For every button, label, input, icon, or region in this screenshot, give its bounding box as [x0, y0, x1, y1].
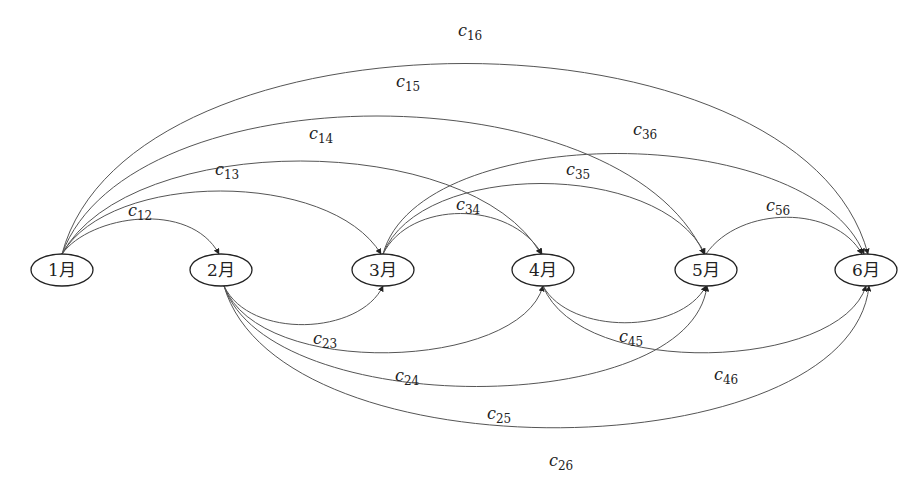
- edge-label-c45: c45: [619, 327, 643, 349]
- node-label: 6月: [852, 260, 880, 280]
- edge-label-c15: c15: [396, 72, 420, 94]
- edge-3-4: [383, 214, 542, 255]
- edge-label-c36: c36: [633, 120, 657, 142]
- edge-2-4: [224, 286, 543, 353]
- edge-label-c34: c34: [456, 195, 481, 217]
- edge-1-6: [62, 64, 868, 255]
- edge-label-c23: c23: [313, 329, 337, 351]
- edge-2-6: [224, 286, 869, 428]
- edge-label-c26: c26: [549, 451, 573, 473]
- edge-label-c13: c13: [215, 160, 239, 182]
- network-diagram: c12 c13 c14 c15 c16 c23 c24 c25 c26 c34 …: [0, 0, 923, 494]
- node-month-1: 1月: [31, 254, 93, 286]
- edge-label-c16: c16: [458, 21, 482, 43]
- edge-3-5: [383, 184, 705, 255]
- edge-label-c24: c24: [395, 366, 420, 388]
- node-month-2: 2月: [190, 254, 252, 286]
- edge-2-3: [224, 286, 383, 325]
- node-label: 2月: [207, 260, 235, 280]
- edge-label-c12: c12: [128, 201, 152, 223]
- node-label: 4月: [529, 260, 557, 280]
- node-label: 5月: [692, 260, 720, 280]
- edge-5-6: [706, 217, 862, 254]
- edge-1-3: [62, 191, 381, 254]
- node-month-6: 6月: [835, 254, 897, 286]
- edge-label-c35: c35: [566, 160, 590, 182]
- node-month-4: 4月: [512, 254, 574, 286]
- node-month-5: 5月: [675, 254, 737, 286]
- node-month-3: 3月: [352, 254, 414, 286]
- edge-label-c14: c14: [309, 124, 334, 146]
- node-label: 3月: [369, 260, 397, 280]
- node-label: 1月: [48, 260, 76, 280]
- edge-label-c46: c46: [714, 365, 738, 387]
- edge-label-c56: c56: [766, 196, 790, 218]
- edge-label-c25: c25: [487, 404, 511, 426]
